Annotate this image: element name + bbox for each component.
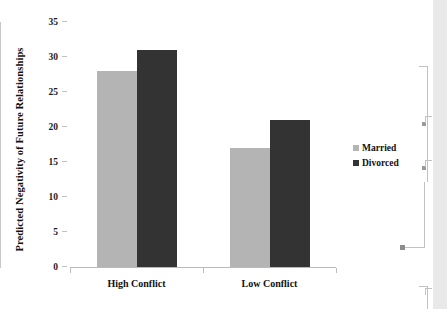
y-tick-label: 10 [49,191,59,203]
x-tick-mark [70,268,71,273]
y-tick: 30 [0,51,70,63]
y-tick-mark [62,91,67,92]
bar-divorced-high-conflict[interactable] [137,50,177,267]
y-tick-mark [62,231,67,232]
y-tick: 20 [0,121,70,133]
y-tick: 5 [0,226,70,238]
y-tick: 25 [0,86,70,98]
x-axis-label-high-conflict: High Conflict [67,278,207,289]
x-axis-label-low-conflict: Low Conflict [200,278,340,289]
y-tick-label: 20 [49,121,59,133]
margin-notch-lower [425,160,432,167]
married-swatch [353,145,359,151]
bar-divorced-low-conflict[interactable] [270,120,310,267]
legend-label: Married [362,143,396,153]
anchor-connector-vertical [424,182,425,248]
bar-chart-figure[interactable]: Predicted Negativity of Future Relations… [0,0,447,309]
y-tick-mark [62,196,67,197]
anchor-connector-horizontal [404,247,425,248]
y-tick-label: 30 [49,51,59,63]
y-tick: 0 [0,261,70,273]
bar-married-low-conflict[interactable] [230,148,270,267]
y-tick-label: 25 [49,86,59,98]
object-anchor-dot[interactable] [400,245,405,250]
y-tick: 35 [0,16,70,28]
x-tick-mark [203,268,204,273]
x-tick-mark [336,268,337,273]
bar-married-high-conflict[interactable] [97,71,137,267]
y-tick: 15 [0,156,70,168]
y-tick-mark [62,161,67,162]
y-tick-label: 15 [49,156,59,168]
margin-notch-upper [425,116,432,123]
legend-item-divorced[interactable]: Divorced [353,155,423,170]
chart-legend: MarriedDivorced [353,140,423,170]
y-tick: 10 [0,191,70,203]
legend-label: Divorced [362,158,399,168]
y-tick-label: 35 [49,16,59,28]
divorced-swatch [353,160,359,166]
margin-notch-bottom [425,288,432,295]
change-bar-cap-top [419,66,428,67]
y-tick-mark [62,126,67,127]
y-tick-mark [62,266,67,267]
y-tick-label: 5 [53,226,58,238]
y-tick-label: 0 [53,261,58,273]
page-edge-band [433,0,447,309]
y-tick-mark [62,56,67,57]
y-tick-mark [62,21,67,22]
legend-item-married[interactable]: Married [353,140,423,155]
